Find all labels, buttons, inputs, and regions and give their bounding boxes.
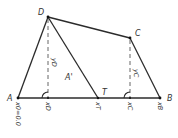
label-t: T	[102, 88, 108, 97]
right-angle-arc-d	[42, 92, 48, 98]
quadrilateral-diagram: D C A B T A' yD yC x0=0.0 xD xT xC xB	[0, 0, 178, 138]
label-x-c: xC	[126, 101, 134, 111]
foot-c	[129, 97, 131, 99]
label-b: B	[167, 94, 173, 103]
label-y-d: yD	[50, 57, 58, 67]
point-a	[17, 97, 20, 100]
point-d	[47, 16, 50, 19]
label-region: A'	[64, 73, 73, 82]
label-x-d: xD	[44, 101, 52, 111]
label-x-t: xT	[94, 101, 102, 111]
right-angle-arc-c	[124, 92, 130, 98]
point-c	[129, 37, 132, 40]
point-t	[97, 97, 99, 99]
point-b	[159, 97, 162, 100]
edge-a-d	[18, 17, 48, 98]
foot-d	[47, 97, 49, 99]
edge-c-b	[130, 38, 160, 98]
edge-d-c	[48, 17, 130, 38]
label-y-c: yC	[132, 68, 140, 78]
label-d: D	[38, 8, 44, 17]
label-x0: x0=0.0	[14, 101, 22, 126]
label-c: C	[135, 29, 141, 38]
label-x-b: xB	[156, 101, 164, 111]
label-a: A	[6, 94, 12, 103]
